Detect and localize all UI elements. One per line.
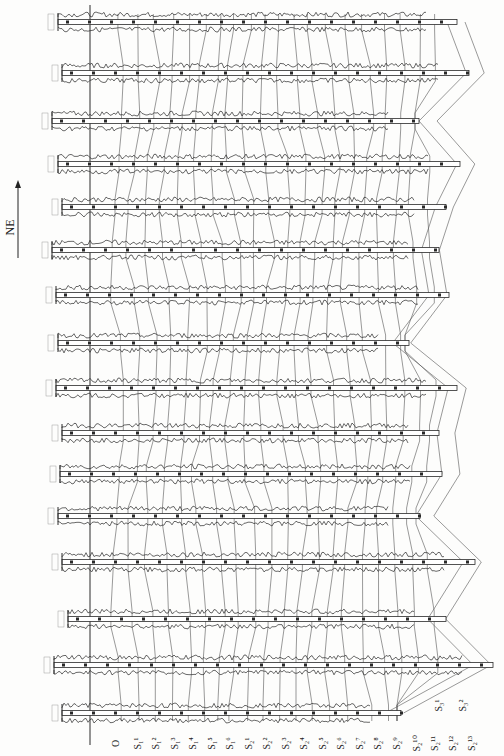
horizon-label: S₂¹¹	[429, 736, 440, 751]
well-track	[52, 703, 403, 723]
well-track	[52, 552, 475, 572]
s3-correlation-line	[404, 22, 492, 713]
correlation-plot	[0, 0, 504, 756]
horizon-label: S₂⁸	[372, 737, 383, 750]
horizon-label: S₂³	[279, 737, 290, 749]
well-track	[50, 464, 442, 484]
horizon-label: O	[110, 740, 121, 747]
well-track	[52, 63, 469, 83]
horizon-label: S₁¹	[131, 737, 142, 749]
horizon-label: S₂⁶	[335, 737, 346, 750]
well-track	[46, 378, 457, 398]
horizon-label: S₂¹²	[447, 736, 458, 751]
well-track	[52, 197, 447, 217]
horizon-label: S₁²	[150, 737, 161, 749]
horizon-label: S₂⁹	[390, 737, 401, 750]
horizon-label: S₂¹³	[466, 736, 477, 751]
well-track	[58, 609, 446, 629]
well-track	[44, 655, 493, 675]
well-track	[52, 423, 439, 443]
horizon-label-s3: S₃¹	[433, 699, 444, 711]
s3-correlation-line	[386, 22, 474, 713]
horizon-label: S₁³	[168, 737, 179, 749]
horizon-label: S₂⁵	[316, 737, 327, 750]
horizon-label: S₁⁵	[205, 737, 216, 750]
well-track	[48, 154, 460, 174]
horizon-label: S₂⁴	[298, 737, 309, 750]
horizon-label: S₁⁶	[224, 737, 235, 750]
orientation-label: NE	[3, 220, 18, 236]
well-track	[42, 240, 439, 260]
horizon-label: S₂⁷	[353, 737, 364, 750]
well-track	[48, 12, 457, 32]
horizon-label-s3: S₃²	[457, 699, 468, 711]
well-track	[48, 333, 409, 353]
well-correlation-figure: NE OS₁¹S₁²S₁³S₁⁴S₁⁵S₁⁶S₂¹S₂²S₂³S₂⁴S₂⁵S₂⁶…	[0, 0, 504, 756]
well-track	[42, 111, 419, 131]
horizon-label: S₂¹	[242, 737, 253, 749]
horizon-label: S₂²	[261, 737, 272, 749]
horizon-label: S₁⁴	[187, 737, 198, 750]
horizon-label: S₂¹⁰	[411, 735, 422, 751]
well-track	[46, 285, 449, 305]
